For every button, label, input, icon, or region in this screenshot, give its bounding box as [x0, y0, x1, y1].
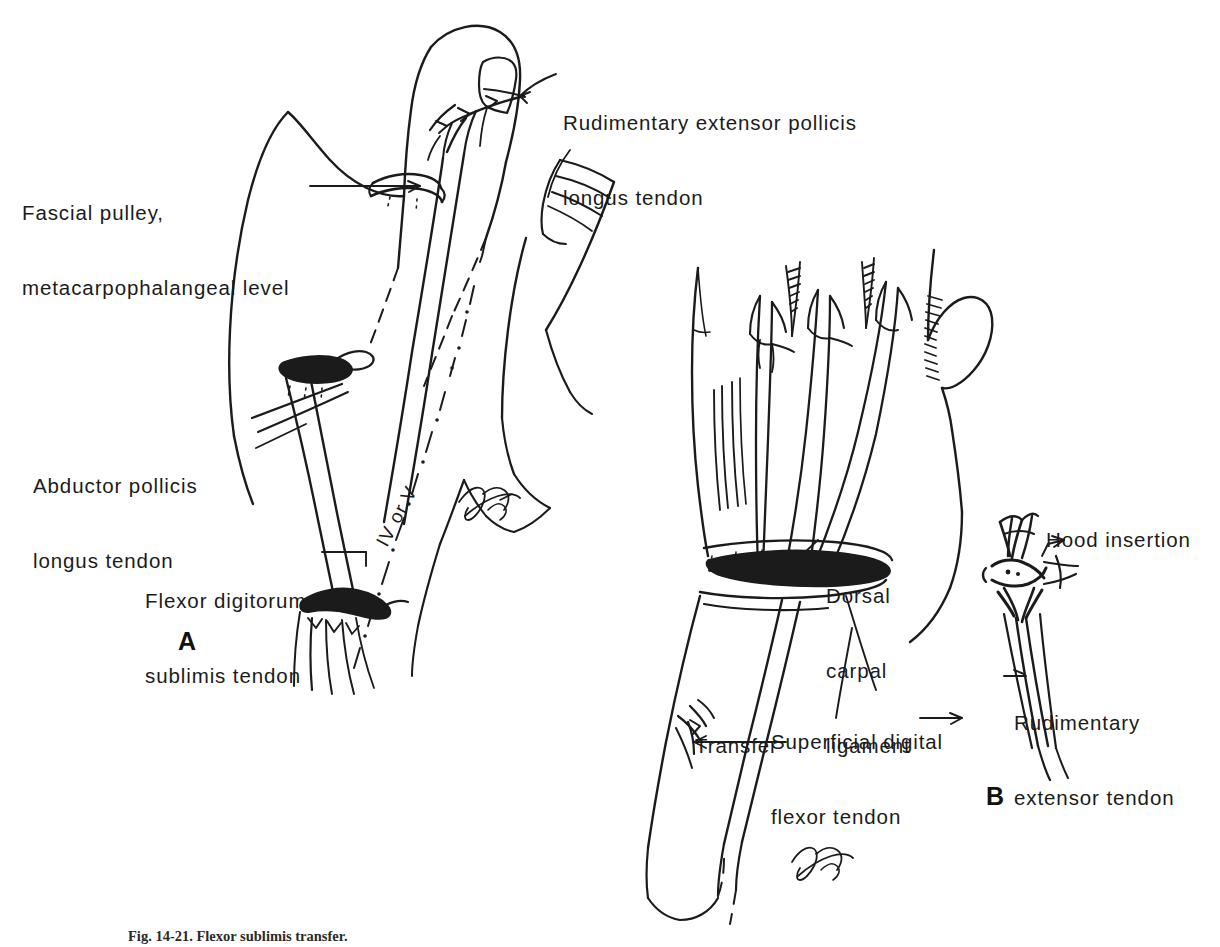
- label-line-1: Rudimentary: [1014, 710, 1175, 735]
- panel-letter-b: B: [986, 782, 1004, 811]
- label-line-1: Flexor digitorum: [145, 588, 306, 613]
- label-line-1: Fascial pulley,: [22, 200, 290, 225]
- label-line-2: sublimis tendon: [145, 663, 306, 688]
- label-line-2: metacarpophalangeal level: [22, 275, 290, 300]
- label-rudimentary-extensor-pollicis-longus: Rudimentary extensor pollicis longus ten…: [563, 60, 857, 260]
- panel-letter-a: A: [178, 627, 196, 656]
- label-rudimentary-extensor-tendon: Rudimentary extensor tendon: [1014, 660, 1175, 860]
- figure-caption: Fig. 14-21. Flexor sublimis transfer.: [128, 928, 348, 945]
- label-line-2: longus tendon: [563, 185, 857, 210]
- label-line-2: extensor tendon: [1014, 785, 1175, 810]
- label-superficial-digital-flexor-tendon: Superficial digital flexor tendon: [771, 679, 943, 879]
- label-line-1: Dorsal: [826, 583, 911, 608]
- label-transfer: Transfer: [695, 733, 778, 758]
- label-line-1: Abductor pollicis: [33, 473, 198, 498]
- label-hood-insertion: Hood insertion: [1046, 527, 1191, 552]
- label-line-1: Superficial digital: [771, 729, 943, 754]
- label-line-1: Rudimentary extensor pollicis: [563, 110, 857, 135]
- label-flexor-digitorum-sublimis: Flexor digitorum sublimis tendon: [145, 538, 306, 738]
- figure-root: Rudimentary extensor pollicis longus ten…: [0, 0, 1220, 947]
- label-line-2: flexor tendon: [771, 804, 943, 829]
- label-fascial-pulley: Fascial pulley, metacarpophalangeal leve…: [22, 150, 290, 350]
